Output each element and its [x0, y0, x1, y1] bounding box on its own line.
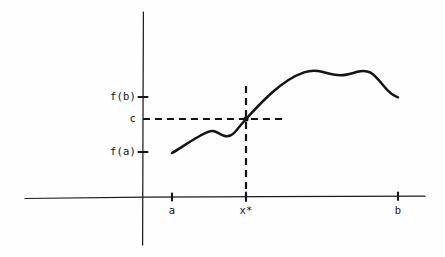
diagram-canvas	[0, 0, 445, 257]
x-axis-label-x-star: x*	[232, 205, 260, 216]
y-axis-label-fb: f(b)	[100, 91, 136, 102]
y-axis-line	[143, 12, 144, 245]
x-axis-label-b: b	[384, 205, 412, 216]
ivt-diagram-figure: f(b) c f(a) a x* b	[0, 0, 445, 257]
x-axis-line	[25, 196, 425, 198]
intersection-point-marker	[243, 116, 248, 121]
function-curve-f	[172, 71, 398, 153]
x-axis-label-a: a	[158, 205, 186, 216]
y-axis-label-c: c	[100, 113, 136, 124]
y-axis-label-fa: f(a)	[100, 146, 136, 157]
